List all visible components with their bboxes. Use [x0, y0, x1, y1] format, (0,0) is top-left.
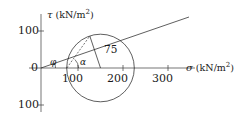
y-axis-unit-open: (kN/m	[56, 9, 86, 20]
radius-value-label: 75	[104, 44, 117, 55]
x-tick-label-100: 100	[62, 73, 83, 84]
y-axis-unit-close: )	[90, 9, 94, 20]
y-tick-label-100-positive: 100	[18, 25, 39, 36]
x-axis-unit-close: )	[230, 62, 234, 73]
x-tick-label-300: 300	[152, 73, 173, 84]
chord-dashed-segment	[67, 36, 90, 68]
mohr-circle-figure: τ (kN/m2) σ (kN/m2) 100 0 100 100 200 30…	[0, 0, 245, 133]
y-axis-symbol: τ	[47, 9, 53, 20]
x-tick-label-200: 200	[107, 73, 128, 84]
x-axis-unit-open: (kN/m	[196, 62, 226, 73]
y-axis-title: τ (kN/m2)	[47, 9, 94, 20]
radius-segment	[90, 36, 101, 68]
phi-angle-label: φ	[50, 58, 56, 67]
alpha-angle-label: α	[80, 58, 86, 67]
x-axis-title: σ (kN/m2)	[186, 62, 234, 73]
y-tick-label-100-negative: 100	[18, 99, 39, 110]
y-tick-label-zero: 0	[31, 62, 38, 73]
x-axis-symbol: σ	[186, 62, 193, 73]
